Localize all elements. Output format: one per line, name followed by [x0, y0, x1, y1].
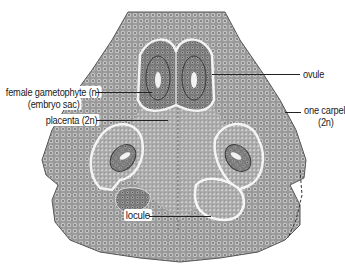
- ovary-micrograph-illustration: [0, 0, 345, 270]
- label-placenta: placenta (2n): [44, 114, 99, 126]
- ovary-cross-section-figure: female gametophyte (n) (embryo sac) plac…: [0, 0, 345, 270]
- label-one-carpel: one carpel: [304, 104, 345, 116]
- label-ovule: ovule: [303, 68, 324, 80]
- label-locule: locule: [124, 209, 152, 221]
- leader-line-locule: [149, 216, 211, 217]
- label-embryo-sac: (embryo sac): [26, 98, 81, 110]
- leader-line-placenta: [96, 120, 168, 121]
- leader-line-female-gametophyte: [96, 92, 152, 93]
- label-female-gametophyte: female gametophyte (n): [4, 86, 101, 98]
- leader-line-ovule: [212, 74, 300, 75]
- label-one-carpel-ploidy: (2n): [318, 116, 334, 128]
- leader-line-one-carpel: [285, 112, 301, 113]
